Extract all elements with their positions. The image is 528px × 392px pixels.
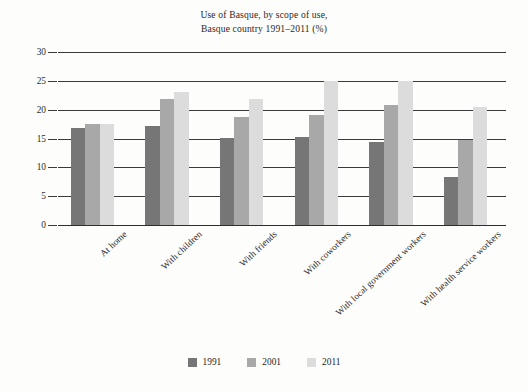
y-tick-30: [48, 52, 57, 53]
bar-group: [369, 52, 413, 225]
category-label: With children: [159, 229, 204, 272]
plot-area: 051015202530: [58, 52, 506, 225]
bar: [295, 137, 310, 225]
bar: [458, 140, 473, 225]
bar: [174, 92, 189, 225]
legend-swatch-1991: [188, 358, 197, 367]
y-tick-10: [48, 167, 57, 168]
bar: [249, 99, 264, 225]
legend-swatch-2011: [307, 358, 316, 367]
y-axis-label-20: 20: [37, 105, 46, 115]
bar: [160, 99, 175, 225]
y-axis-label-10: 10: [37, 162, 46, 172]
legend-label: 1991: [203, 357, 222, 367]
bar: [384, 105, 399, 225]
chart-title-line-1: Use of Basque, by scope of use,: [0, 8, 528, 22]
bar: [398, 81, 413, 225]
y-tick-20: [48, 110, 57, 111]
category-label: With local government workers: [334, 229, 428, 318]
bar: [324, 81, 339, 225]
y-axis-label-25: 25: [37, 76, 46, 86]
category-label: With friends: [237, 229, 278, 268]
category-axis-labels: At homeWith childrenWith friendsWith cow…: [58, 225, 506, 345]
bar-group: [444, 52, 488, 225]
y-tick-25: [48, 81, 57, 82]
bar: [369, 142, 384, 225]
category-label: With coworkers: [302, 229, 353, 277]
bar-group: [220, 52, 264, 225]
chart-legend: 199120012011: [0, 357, 528, 367]
y-axis-label-15: 15: [37, 134, 46, 144]
legend-label: 2001: [262, 357, 281, 367]
legend-label: 2011: [322, 357, 340, 367]
bar-group: [71, 52, 115, 225]
chart-title-line-2: Basque country 1991–2011 (%): [0, 22, 528, 36]
bar: [309, 115, 324, 225]
y-tick-0: [48, 225, 57, 226]
y-axis-label-30: 30: [37, 47, 46, 57]
bar: [473, 107, 488, 225]
legend-item-2001: 2001: [247, 357, 281, 367]
y-tick-5: [48, 196, 57, 197]
legend-item-1991: 1991: [188, 357, 222, 367]
y-axis-label-0: 0: [41, 220, 46, 230]
bar: [234, 117, 249, 225]
chart-figure: Use of Basque, by scope of use,Basque co…: [0, 0, 528, 392]
bar-group: [145, 52, 189, 225]
bar: [71, 128, 86, 225]
y-axis-label-5: 5: [41, 191, 46, 201]
y-tick-15: [48, 139, 57, 140]
bar-series-container: [58, 52, 506, 225]
category-label: With health service workers: [418, 229, 502, 308]
chart-title: Use of Basque, by scope of use,Basque co…: [0, 8, 528, 35]
legend-swatch-2001: [247, 358, 256, 367]
bar: [100, 124, 115, 225]
bar: [85, 124, 100, 225]
legend-item-2011: 2011: [307, 357, 340, 367]
bar: [145, 126, 160, 225]
bar: [220, 138, 235, 225]
category-label: At home: [98, 229, 129, 259]
bar-group: [295, 52, 339, 225]
bar: [444, 177, 459, 225]
